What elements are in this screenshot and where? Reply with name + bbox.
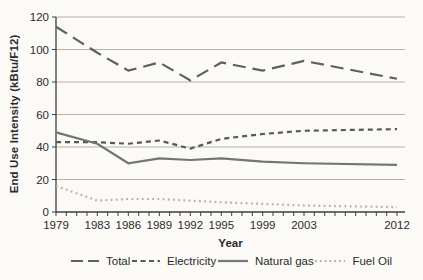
legend-label-fuel-oil: Fuel Oil [352, 255, 392, 267]
series-line-electricity [56, 129, 397, 149]
legend-label-natural-gas: Natural gas [255, 255, 314, 267]
x-axis-title: Year [56, 237, 405, 249]
series-line-fuel-oil [56, 186, 397, 207]
x-tick-label: 1989 [147, 219, 173, 231]
x-tick-label: 2012 [384, 219, 410, 231]
y-tick-label: 0 [43, 206, 49, 218]
legend-item-fuel-oil: Fuel Oil [314, 255, 392, 267]
y-axis-title: End Use Intensity (kBtu/F12) [8, 35, 20, 194]
y-tick-label: 100 [30, 44, 49, 56]
legend: Total Electricity Natural gas Fuel Oil [70, 255, 392, 267]
series-line-total [56, 27, 397, 81]
legend-label-total: Total [106, 255, 130, 267]
total-line-swatch [70, 255, 100, 267]
y-tick-label: 40 [36, 141, 49, 153]
legend-item-electricity: Electricity [131, 255, 216, 267]
y-tick-label: 120 [30, 11, 49, 23]
x-tick-label: 1999 [250, 219, 276, 231]
x-tick-label: 1992 [178, 219, 204, 231]
x-tick-label: 1983 [85, 219, 111, 231]
x-tick-label: 1995 [209, 219, 235, 231]
fuel-oil-line-swatch [314, 255, 346, 267]
electricity-line-swatch [131, 255, 161, 267]
y-tick-label: 60 [36, 109, 49, 121]
x-tick-label: 2003 [291, 219, 317, 231]
y-tick-label: 20 [36, 174, 49, 186]
legend-item-total: Total [70, 255, 130, 267]
y-tick-label: 80 [36, 76, 49, 88]
legend-label-electricity: Electricity [167, 255, 216, 267]
legend-item-natural-gas: Natural gas [217, 255, 314, 267]
x-tick-label: 1986 [116, 219, 142, 231]
x-tick-label: 1979 [43, 219, 69, 231]
energy-intensity-chart: 0204060801001201979198319861989199219951… [0, 0, 423, 280]
natural-gas-line-swatch [217, 255, 249, 267]
